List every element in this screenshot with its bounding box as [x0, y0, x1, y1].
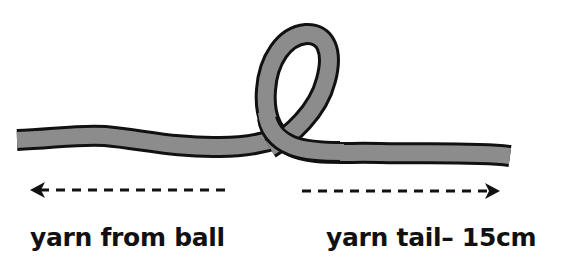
arrowhead-right-icon	[485, 183, 500, 199]
yarn-strand-left	[17, 136, 282, 148]
label-yarn-tail: yarn tail– 15cm	[326, 223, 536, 252]
yarn-loop-diagram: yarn from ball yarn tail– 15cm	[0, 0, 572, 268]
yarn-loop	[266, 34, 510, 156]
right-arrow	[302, 183, 500, 199]
label-yarn-from-ball: yarn from ball	[30, 223, 225, 252]
left-arrow	[30, 182, 228, 198]
